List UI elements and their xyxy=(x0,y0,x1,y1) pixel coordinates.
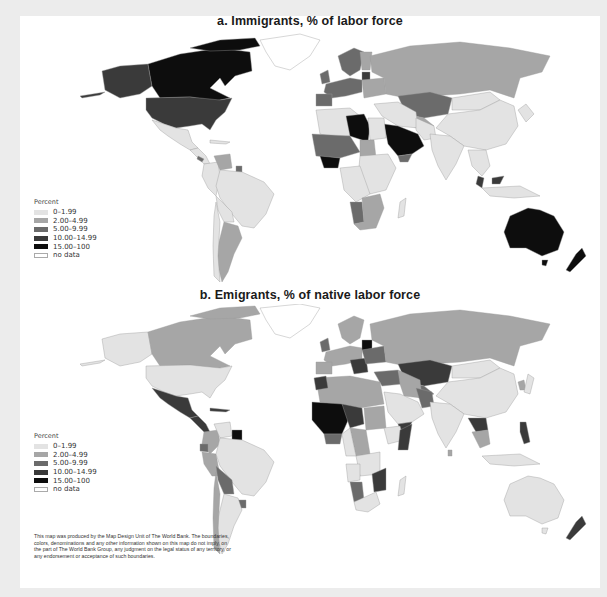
alaska xyxy=(102,64,152,98)
sahel xyxy=(312,134,360,158)
map-a-legend: Percent 0–1.99 2.00–4.99 5.00–9.99 10.00… xyxy=(34,198,97,260)
legend-label: 10.00–14.99 xyxy=(53,468,97,476)
uk xyxy=(320,70,330,84)
sudan xyxy=(364,406,386,430)
legend-swatch xyxy=(34,444,48,449)
alaska xyxy=(102,332,152,366)
map-b-legend: Percent 0–1.99 2.00–4.99 5.00–9.99 10.00… xyxy=(34,432,97,494)
legend-item: 2.00–4.99 xyxy=(34,451,97,460)
central-america xyxy=(190,416,210,432)
caribbean xyxy=(210,408,230,412)
legend-title: Percent xyxy=(34,198,97,206)
legend-swatch xyxy=(34,253,48,258)
korea-japan xyxy=(518,104,534,122)
sri-lanka xyxy=(448,450,452,456)
legend-item: 0–1.99 xyxy=(34,208,97,217)
ecuador xyxy=(200,444,208,452)
colombia-peru xyxy=(202,162,220,196)
legend-label: 15.00–100 xyxy=(53,243,90,251)
legend-item: 15.00–100 xyxy=(34,242,97,251)
australia xyxy=(504,208,564,256)
greenland xyxy=(260,34,320,70)
canada-arctic-islands xyxy=(190,38,260,51)
guyana-suriname xyxy=(232,430,242,440)
canada xyxy=(148,48,252,101)
legend-item: no data xyxy=(34,485,97,494)
french-guiana xyxy=(236,166,242,172)
tasmania xyxy=(542,260,548,266)
indonesia xyxy=(482,186,540,198)
legend-swatch xyxy=(34,470,48,475)
legend-swatch xyxy=(34,210,48,215)
tasmania xyxy=(542,528,548,534)
canada xyxy=(148,316,252,369)
scandinavia xyxy=(338,316,364,344)
legend-swatch xyxy=(34,461,48,466)
borneo-malaysia xyxy=(492,176,504,184)
legend-label: no data xyxy=(53,251,80,259)
legend-label: 10.00–14.99 xyxy=(53,234,97,242)
legend-item: no data xyxy=(34,251,97,260)
russia xyxy=(370,42,550,98)
legend-item: 2.00–4.99 xyxy=(34,217,97,226)
legend-swatch xyxy=(34,244,48,249)
east-europe xyxy=(362,78,386,98)
aleutians xyxy=(80,360,105,366)
caribbean xyxy=(210,140,230,144)
iberia xyxy=(316,94,332,106)
egypt xyxy=(368,118,386,140)
australia xyxy=(504,476,564,524)
malaysia xyxy=(476,176,484,188)
iberia xyxy=(316,362,332,374)
legend-label: 2.00–4.99 xyxy=(53,217,88,225)
new-zealand xyxy=(566,516,586,540)
uk-ireland xyxy=(320,338,330,352)
chile xyxy=(213,202,220,282)
legend-swatch xyxy=(34,218,48,223)
legend-swatch xyxy=(34,236,48,241)
legend-label: 5.00–9.99 xyxy=(53,459,88,467)
legend-label: 0–1.99 xyxy=(53,442,77,450)
legend-item: 5.00–9.99 xyxy=(34,225,97,234)
legend-item: 5.00–9.99 xyxy=(34,459,97,468)
se-asia xyxy=(468,150,490,176)
legend-label: no data xyxy=(53,485,80,493)
vietnam-thailand xyxy=(472,430,490,448)
namibia xyxy=(350,202,364,224)
baltics xyxy=(362,72,370,80)
map-panel: a. Immigrants, % of labor force xyxy=(20,16,600,588)
central-america xyxy=(190,148,210,164)
legend-label: 5.00–9.99 xyxy=(53,225,88,233)
laos-myanmar xyxy=(468,418,488,432)
russia xyxy=(370,310,550,366)
legend-label: 2.00–4.99 xyxy=(53,451,88,459)
new-zealand xyxy=(566,248,586,272)
finland xyxy=(360,52,372,70)
argentina xyxy=(218,222,242,282)
legend-swatch xyxy=(34,227,48,232)
legend-swatch xyxy=(34,487,48,492)
west-africa-coast xyxy=(324,434,342,444)
legend-item: 10.00–14.99 xyxy=(34,468,97,477)
madagascar xyxy=(398,476,406,496)
legend-item: 0–1.99 xyxy=(34,442,97,451)
canada-arctic-islands xyxy=(190,306,260,319)
map-a-world xyxy=(20,26,600,296)
west-africa-coast xyxy=(320,156,340,168)
philippines xyxy=(520,422,530,444)
morocco xyxy=(314,376,328,390)
indonesia xyxy=(482,454,540,466)
greenland xyxy=(260,304,320,338)
legend-swatch xyxy=(34,452,48,457)
legend-item: 10.00–14.99 xyxy=(34,234,97,243)
madagascar xyxy=(398,198,406,218)
legend-item: 15.00–100 xyxy=(34,476,97,485)
legend-label: 15.00–100 xyxy=(53,477,90,485)
map-disclaimer: This map was produced by the Map Design … xyxy=(34,533,234,559)
legend-swatch xyxy=(34,478,48,483)
angola xyxy=(346,464,360,482)
legend-title: Percent xyxy=(34,432,97,440)
legend-label: 0–1.99 xyxy=(53,208,77,216)
map-b-title: b. Emigrants, % of native labor force xyxy=(20,288,600,302)
japan xyxy=(524,374,534,394)
